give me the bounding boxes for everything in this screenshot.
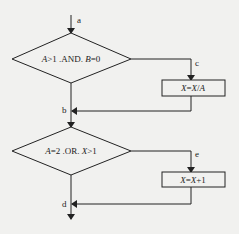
decision1-text: A>1 .AND. B=0 (41, 54, 101, 64)
process2-text: X=X+1 (179, 175, 206, 185)
label-b: b (62, 105, 67, 115)
label-c: c (195, 58, 199, 68)
flowchart: a c b e d A>1 .AND. B=0 X=X/A A=2 .OR. X… (0, 0, 239, 234)
path-c-line (131, 59, 191, 80)
path-return2-line (72, 187, 191, 204)
path-return1-line (72, 96, 191, 111)
process1-text: X=X/A (180, 83, 206, 93)
path-e-line (131, 151, 191, 172)
label-d: d (62, 199, 67, 209)
label-e: e (195, 149, 199, 159)
label-a: a (77, 15, 81, 25)
decision2-text: A=2 .OR. X>1 (44, 146, 97, 156)
